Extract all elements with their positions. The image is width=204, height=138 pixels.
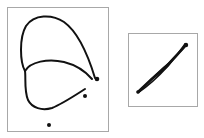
left-lower-loop-stroke — [25, 71, 85, 109]
dot-marker — [184, 43, 188, 47]
dot-marker — [83, 94, 87, 98]
left-upper-loop-stroke — [21, 16, 95, 78]
dot-marker — [136, 90, 140, 94]
dot-marker — [47, 123, 51, 127]
drawing-canvas — [0, 0, 204, 138]
dot-marker — [95, 77, 100, 82]
left-middle-curve-stroke — [25, 60, 92, 79]
